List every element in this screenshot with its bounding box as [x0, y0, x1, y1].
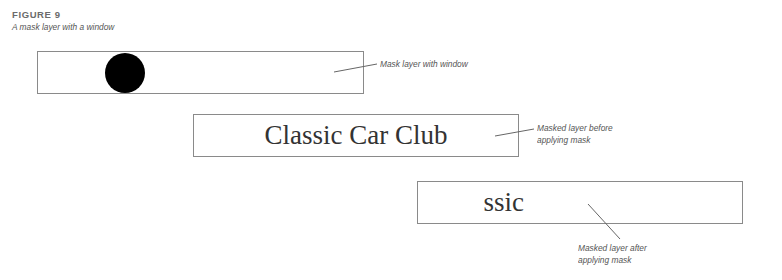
- leader-line-before: [495, 129, 534, 136]
- label-masked-after: Masked layer after applying mask: [578, 242, 647, 266]
- leader-line-after: [588, 204, 620, 239]
- label-masked-before: Masked layer before applying mask: [537, 122, 613, 146]
- label-mask-layer: Mask layer with window: [380, 58, 468, 70]
- leader-line-mask: [334, 64, 377, 72]
- leader-lines: [0, 0, 782, 280]
